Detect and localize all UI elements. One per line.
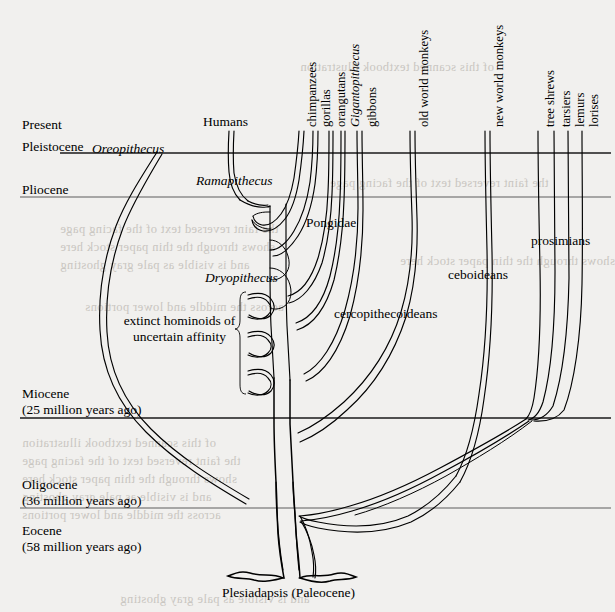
branch-prosimian-bundle-2 [301, 421, 529, 521]
tip-label-gorillas: gorillas [319, 89, 334, 127]
root-flare-right [300, 573, 356, 582]
label-extinct-hominoids: extinct hominoids of uncertain affinity [122, 313, 237, 345]
branch-oldworld-left [298, 131, 412, 433]
label-plesiadapsis: Plesiadapsis (Paleocene) [222, 585, 355, 601]
tip-label-gigantopithecus: Gigantopithecus [348, 44, 363, 127]
extinct-hominoids-line1: extinct hominoids of [122, 313, 237, 329]
trunk-main-left [274, 378, 284, 578]
tip-label-tarsiers: tarsiers [559, 91, 574, 127]
plesiadapsis-epoch: (Paleocene) [288, 585, 355, 600]
epoch-sub: (25 million years ago) [22, 402, 142, 418]
epoch-label-miocene: Miocene (25 million years ago) [22, 386, 142, 419]
label-ceboideans: ceboideans [448, 267, 508, 283]
tip-label-gibbons: gibbons [365, 87, 380, 127]
tip-label-chimpanzees: chimpanzees [305, 62, 320, 127]
branch-oldworld-right [300, 131, 417, 442]
epoch-name: Oligocene [22, 477, 142, 493]
branch-gorillas-right [273, 131, 318, 256]
epoch-label-eocene: Eocene (58 million years ago) [22, 523, 142, 556]
branch-newworld-right [460, 131, 492, 482]
branch-humans-left [228, 131, 240, 200]
tip-label-lorises: lorises [587, 94, 602, 127]
tip-label-old-world-monkeys: old world monkeys [417, 30, 432, 127]
branch-gorillas-left [271, 131, 313, 250]
trunk-main-right [290, 380, 300, 578]
branch-chimpanzees-join [253, 212, 270, 216]
epoch-label-pliocene: Pliocene [22, 182, 69, 198]
branch-prosimian-bundle-1 [300, 419, 526, 516]
branch-lorises [534, 131, 582, 421]
epoch-name: Miocene [22, 386, 142, 402]
epoch-label-oligocene: Oligocene (36 million years ago) [22, 477, 142, 510]
plesiadapsis-genus: Plesiadapsis [222, 585, 288, 600]
label-humans: Humans [203, 114, 248, 130]
epoch-name: Pliocene [22, 182, 69, 197]
branch-newworld-left [456, 131, 487, 476]
epoch-name: Eocene [22, 523, 142, 539]
tip-label-lemurs: lemurs [573, 93, 588, 127]
epoch-name: Present [22, 117, 62, 132]
label-pongidae: Pongidae [306, 215, 356, 231]
branch-gibbons-left [304, 131, 358, 374]
epoch-name: Pleistocene [22, 139, 83, 154]
trunk-lower-right [293, 482, 299, 570]
label-prosimians: prosimians [531, 233, 590, 249]
label-oreopithecus: Oreopithecus [92, 141, 164, 157]
label-cercopithecoideans: cercopithecoideans [334, 306, 437, 322]
epoch-sub: (58 million years ago) [22, 539, 142, 555]
branch-tarsiers [528, 131, 555, 420]
root-flare-left [228, 572, 283, 581]
label-ramapithecus: Ramapithecus [196, 173, 273, 189]
tip-label-new-world-monkeys: new world monkeys [492, 25, 507, 127]
label-dryopithecus: Dryopithecus [205, 270, 278, 286]
tip-label-tree-shrews: tree shrews [543, 70, 558, 127]
branch-treeshrews [526, 131, 540, 419]
branch-humans-right [233, 131, 248, 201]
epoch-label-pleistocene: Pleistocene [22, 139, 83, 155]
hominoid-stem-right [286, 204, 290, 380]
epoch-sub: (36 million years ago) [22, 493, 142, 509]
epoch-label-present: Present [22, 117, 62, 133]
tip-label-orangutans: orangutans [334, 72, 349, 127]
extinct-hominoids-line2: uncertain affinity [122, 329, 237, 345]
